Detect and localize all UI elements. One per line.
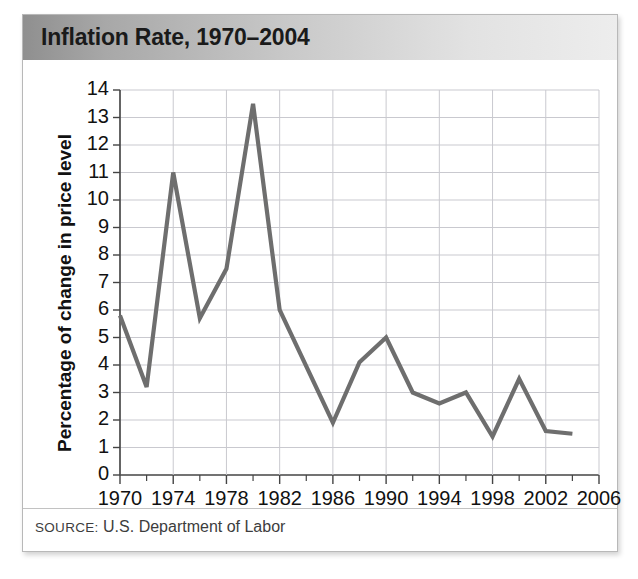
y-tick-label: 9 xyxy=(75,215,109,238)
source-note: SOURCE: U.S. Department of Labor xyxy=(35,518,285,536)
x-tick-label: 1978 xyxy=(198,487,254,510)
page-title: Inflation Rate, 1970–2004 xyxy=(41,24,310,51)
y-tick-label: 10 xyxy=(75,187,109,210)
y-tick-label: 8 xyxy=(75,242,109,265)
y-tick-label: 12 xyxy=(75,132,109,155)
y-tick-label: 4 xyxy=(75,352,109,375)
line-chart-svg xyxy=(23,60,619,508)
y-tick-label: 7 xyxy=(75,270,109,293)
y-tick-label: 14 xyxy=(75,77,109,100)
plot-area: Percentage of change in price level 0123… xyxy=(23,60,617,508)
x-tick-label: 1994 xyxy=(411,487,467,510)
y-tick-label: 6 xyxy=(75,297,109,320)
y-tick-label: 5 xyxy=(75,325,109,348)
chart-figure: Inflation Rate, 1970–2004 Percentage of … xyxy=(22,14,618,552)
series-line-0 xyxy=(120,104,572,437)
source-label: SOURCE: xyxy=(35,520,99,535)
y-tick-label: 13 xyxy=(75,105,109,128)
y-tick-label: 3 xyxy=(75,380,109,403)
x-tick-label: 1974 xyxy=(145,487,201,510)
x-tick-label: 1970 xyxy=(92,487,148,510)
source-divider xyxy=(23,508,617,509)
x-tick-label: 1986 xyxy=(305,487,361,510)
y-tick-label: 11 xyxy=(75,160,109,183)
x-tick-label: 2002 xyxy=(518,487,574,510)
x-tick-label: 1990 xyxy=(358,487,414,510)
y-tick-label: 2 xyxy=(75,407,109,430)
x-tick-label: 1998 xyxy=(465,487,521,510)
y-tick-label: 0 xyxy=(75,462,109,485)
source-value: U.S. Department of Labor xyxy=(103,518,285,535)
chart-title-bar: Inflation Rate, 1970–2004 xyxy=(23,15,617,60)
y-tick-label: 1 xyxy=(75,435,109,458)
x-tick-label: 1982 xyxy=(252,487,308,510)
x-tick-label: 2006 xyxy=(571,487,627,510)
